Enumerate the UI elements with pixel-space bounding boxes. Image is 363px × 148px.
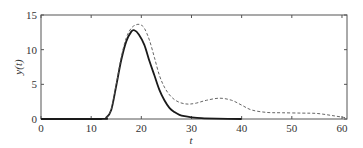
x-tick-label: 30: [186, 122, 198, 134]
series-solid-line: [41, 30, 242, 119]
y-tick-label: 15: [26, 9, 38, 21]
y-tick-label: 5: [32, 78, 38, 90]
x-axis-label: t: [189, 134, 193, 146]
x-tick-label: 50: [286, 122, 298, 134]
line-chart: 051015 0102030405060 t y(t): [0, 0, 363, 148]
plot-area-frame: [41, 15, 347, 119]
x-tick-label: 0: [38, 122, 44, 134]
y-tick-label: 0: [32, 113, 38, 125]
x-tick-label: 40: [236, 122, 248, 134]
x-axis-ticks: 0102030405060: [38, 15, 348, 134]
series-dashed-line: [106, 24, 347, 118]
x-tick-label: 10: [86, 122, 98, 134]
y-axis-ticks: 051015: [26, 9, 347, 125]
x-tick-label: 20: [136, 122, 148, 134]
series-layer: [41, 24, 347, 119]
x-tick-label: 60: [336, 122, 348, 134]
y-axis-label: y(t): [12, 59, 25, 76]
y-tick-label: 10: [26, 44, 38, 56]
